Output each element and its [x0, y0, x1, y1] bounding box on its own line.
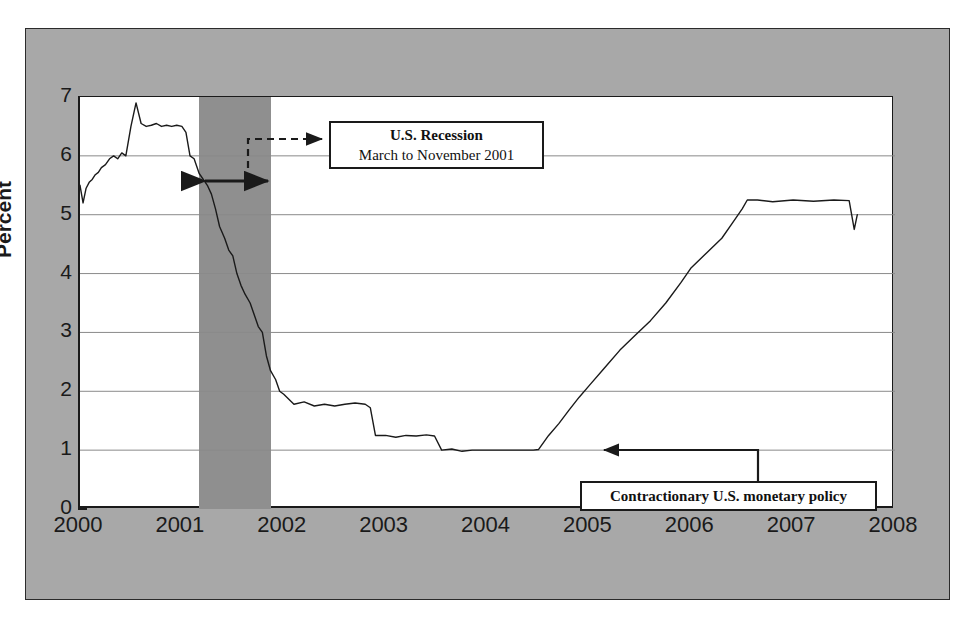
- recession-callout-dates: March to November 2001: [331, 146, 542, 166]
- x-tick-label-2005: 2005: [542, 512, 632, 538]
- recession-callout-box: U.S. Recession March to November 2001: [329, 121, 544, 169]
- y-tick-label-2: 2: [36, 378, 72, 399]
- policy-callout-box: Contractionary U.S. monetary policy: [580, 481, 877, 511]
- recession-callout-title: U.S. Recession: [331, 126, 542, 146]
- x-tick-label-2001: 2001: [135, 512, 225, 538]
- y-axis-tick-labels: 01234567: [28, 96, 72, 508]
- y-tick-label-1: 1: [36, 437, 72, 458]
- x-tick-label-2000: 2000: [33, 512, 123, 538]
- y-tick-label-7: 7: [36, 84, 72, 105]
- y-tick-label-6: 6: [36, 143, 72, 164]
- x-tick-label-2002: 2002: [237, 512, 327, 538]
- x-tick-label-2006: 2006: [644, 512, 734, 538]
- y-tick-label-5: 5: [36, 202, 72, 223]
- x-tick-label-2008: 2008: [848, 512, 938, 538]
- chart-figure: Percent 01234567 20002001200220032004200…: [0, 0, 976, 627]
- x-tick-label-2007: 2007: [746, 512, 836, 538]
- y-tick-label-4: 4: [36, 261, 72, 282]
- x-tick-label-2003: 2003: [339, 512, 429, 538]
- y-tick-label-3: 3: [36, 319, 72, 340]
- policy-callout-text: Contractionary U.S. monetary policy: [610, 488, 847, 504]
- gridlines: [80, 156, 895, 450]
- y-axis-title: Percent: [0, 118, 16, 258]
- x-tick-label-2004: 2004: [441, 512, 531, 538]
